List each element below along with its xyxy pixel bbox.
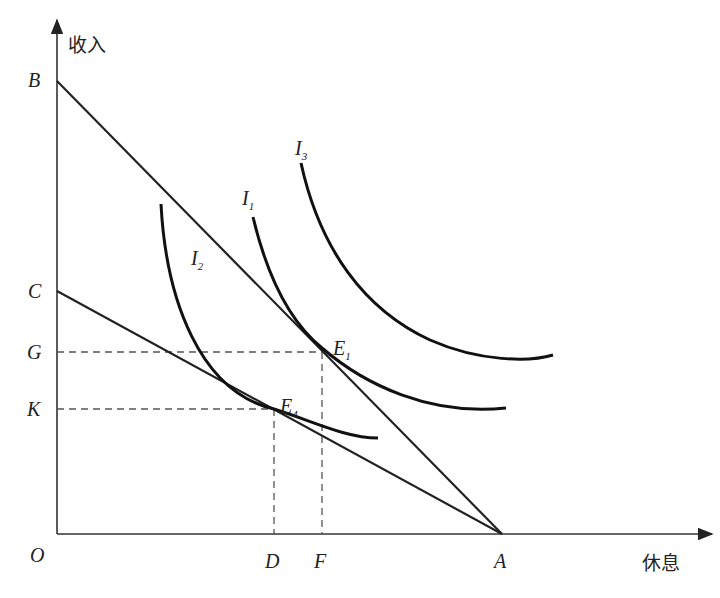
origin-label: O (30, 544, 44, 566)
y-axis-label: 收入 (68, 34, 106, 56)
indifference-curve-I3 (301, 163, 553, 359)
curve-label-I1: I1 (241, 187, 254, 212)
indifference-curve-I1 (253, 217, 506, 409)
curve-label-I2: I2 (190, 247, 204, 272)
x-axis-label: 休息 (642, 552, 680, 574)
point-label-K: K (26, 398, 42, 420)
leisure-income-diagram: 收入 休息 O B C G K D F A I3 I1 I2 E1 E4 (0, 0, 720, 598)
equilibrium-label-E4: E4 (279, 395, 298, 420)
point-label-G: G (27, 341, 42, 363)
point-label-A: A (492, 550, 507, 572)
equilibrium-label-E1: E1 (332, 337, 351, 362)
curve-label-I3: I3 (294, 137, 308, 162)
point-label-C: C (28, 280, 42, 302)
point-label-B: B (28, 69, 40, 91)
budget-line-BA (57, 81, 502, 534)
indifference-curve-I2 (161, 204, 378, 438)
point-label-D: D (264, 550, 280, 572)
point-label-F: F (313, 550, 327, 572)
